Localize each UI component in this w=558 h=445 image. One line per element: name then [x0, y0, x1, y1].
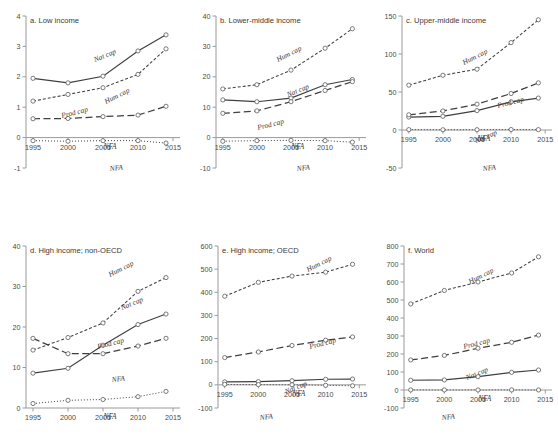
data-point-hum-cap	[221, 87, 225, 91]
data-point-hum-cap	[350, 262, 354, 266]
y-tick-label: 10	[203, 103, 211, 112]
series-line-hum-cap	[225, 264, 353, 296]
panel-title: e. High income; OECD	[222, 246, 299, 255]
data-point-nat-cap	[441, 114, 445, 118]
y-tick-label: 600	[387, 278, 399, 287]
y-tick-label: 30	[13, 282, 21, 291]
series-label-prod-cap: Prod cap	[95, 336, 125, 352]
data-point-prod-cap	[164, 104, 168, 108]
data-point-prod-cap	[66, 352, 70, 356]
data-point-nat-cap	[101, 74, 105, 78]
data-point-prod-cap	[101, 352, 105, 356]
series-label-nfa: NFA	[295, 163, 310, 173]
series-label-hum-cap: Hum cap	[460, 46, 489, 67]
data-point-nfa	[256, 383, 260, 387]
data-point-prod-cap	[442, 353, 446, 357]
series-label-prod-cap: Prod cap	[307, 336, 337, 352]
data-point-nfa	[350, 384, 354, 388]
chart-panel-a: -10123419952000200520102015NFANat capHum…	[0, 0, 186, 222]
data-point-nfa	[255, 139, 259, 143]
data-point-prod-cap	[289, 100, 293, 104]
data-point-nfa	[66, 139, 70, 143]
y-tick-label: -50	[386, 164, 396, 173]
data-point-hum-cap	[164, 47, 168, 51]
chart-panel-d: 01020304019952000200520102015NFANat capH…	[0, 222, 186, 444]
data-point-nfa	[223, 382, 227, 386]
y-tick-label: 100	[201, 357, 213, 366]
y-tick-label: 2	[17, 72, 21, 81]
figure-panel-grid: -10123419952000200520102015NFANat capHum…	[0, 0, 558, 445]
x-tick-label: 2015	[351, 390, 367, 399]
data-point-nat-cap	[475, 109, 479, 113]
data-point-nfa	[31, 401, 35, 405]
series-line-hum-cap	[33, 278, 166, 350]
data-point-prod-cap	[256, 350, 260, 354]
y-tick-label: 200	[387, 350, 399, 359]
data-point-nat-cap	[221, 98, 225, 102]
data-point-nfa	[31, 139, 35, 143]
y-tick-label: 3	[17, 42, 21, 51]
data-point-prod-cap	[510, 340, 514, 344]
data-point-nat-cap	[536, 96, 540, 100]
chart-panel-c: -5005010015019952000200520102015NFANat c…	[372, 0, 558, 222]
data-point-hum-cap	[350, 27, 354, 31]
series-line-prod-cap	[33, 106, 166, 118]
y-tick-label: 30	[203, 42, 211, 51]
nfa-axis-annotation: NFA	[477, 394, 491, 403]
y-tick-label: 40	[13, 242, 21, 251]
series-label-hum-cap: Hum cap	[106, 258, 135, 279]
data-point-hum-cap	[136, 72, 140, 76]
x-tick-label: 2000	[435, 135, 451, 144]
data-point-prod-cap	[350, 80, 354, 84]
data-point-nfa	[510, 388, 514, 392]
data-point-nat-cap	[66, 366, 70, 370]
data-point-hum-cap	[164, 275, 168, 279]
x-tick-label: 1995	[215, 143, 231, 152]
x-tick-label: 2010	[503, 135, 519, 144]
y-tick-label: 400	[201, 288, 213, 297]
y-tick-label: 800	[387, 242, 399, 251]
data-point-prod-cap	[407, 113, 411, 117]
data-point-nfa	[536, 388, 540, 392]
data-point-nat-cap	[164, 33, 168, 37]
x-tick-label: 2010	[318, 390, 334, 399]
series-label-nat-cap: Nat cap	[91, 47, 117, 65]
data-point-hum-cap	[536, 255, 540, 259]
x-tick-label: 1995	[401, 135, 417, 144]
data-point-nfa	[536, 128, 540, 132]
x-tick-label: 2000	[60, 413, 76, 422]
y-tick-label: -1	[14, 164, 20, 173]
y-tick-label: 300	[387, 332, 399, 341]
y-tick-label: -100	[384, 404, 398, 413]
data-point-hum-cap	[290, 274, 294, 278]
y-tick-label: 0	[17, 404, 21, 413]
data-point-prod-cap	[255, 109, 259, 113]
x-tick-label: 1995	[25, 143, 41, 152]
data-point-prod-cap	[101, 115, 105, 119]
data-point-prod-cap	[350, 335, 354, 339]
data-point-hum-cap	[536, 18, 540, 22]
data-point-nfa	[323, 139, 327, 143]
data-point-prod-cap	[441, 109, 445, 113]
data-point-nat-cap	[164, 312, 168, 316]
data-point-prod-cap	[536, 81, 540, 85]
data-point-nat-cap	[409, 378, 413, 382]
data-point-nat-cap	[324, 377, 328, 381]
data-point-nfa	[221, 139, 225, 143]
data-point-hum-cap	[223, 294, 227, 298]
series-label-hum-cap: Hum cap	[274, 43, 303, 64]
data-point-hum-cap	[475, 67, 479, 71]
y-tick-label: 4	[17, 12, 21, 21]
panel-title: a. Low income	[30, 16, 79, 25]
data-point-hum-cap	[101, 321, 105, 325]
series-label-hum-cap: Hum cap	[466, 265, 495, 286]
y-tick-label: 100	[387, 368, 399, 377]
data-point-hum-cap	[510, 271, 514, 275]
series-label-prod-cap: Prod cap	[255, 117, 285, 133]
x-tick-label: 2010	[130, 413, 146, 422]
data-point-nfa	[164, 141, 168, 145]
data-point-nat-cap	[136, 322, 140, 326]
data-point-prod-cap	[136, 113, 140, 117]
data-point-hum-cap	[101, 86, 105, 90]
chart-panel-b: -1001020304019952000200520102015NFANat c…	[186, 0, 372, 222]
